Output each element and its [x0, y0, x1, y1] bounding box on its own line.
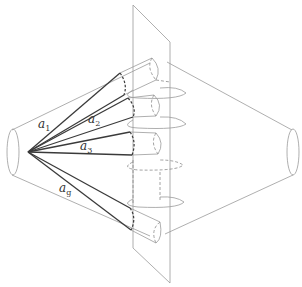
cyl3-bottom — [132, 154, 158, 155]
left-ellipse — [7, 129, 19, 175]
envelope-top-line-right — [167, 62, 292, 130]
label-ag: ag — [59, 182, 71, 197]
cyl1-dash-out — [156, 80, 170, 82]
outer-envelope — [7, 62, 299, 236]
cyl2-bottom — [133, 116, 156, 117]
label-a3: a3 — [80, 140, 92, 155]
ring-4 — [128, 197, 184, 208]
plane-top-edge — [133, 5, 170, 42]
cyl1-far-end — [152, 58, 158, 80]
ray-ag-bottom — [28, 152, 131, 230]
ray-a1-top — [28, 73, 120, 152]
envelope-bottom-line-right — [165, 175, 293, 234]
cyl3-top — [130, 132, 156, 133]
cylinder-3 — [130, 132, 161, 155]
cylg-top — [130, 208, 160, 222]
cyl2-top — [128, 95, 154, 98]
cyl3-far-end-hidden — [153, 133, 158, 154]
right-ellipse — [287, 129, 299, 175]
ray-ag-top — [28, 152, 130, 208]
plane-bottom-edge — [133, 248, 170, 283]
ring-3 — [128, 160, 183, 170]
cylg-far-end — [156, 222, 161, 243]
vertical-plane — [133, 5, 170, 283]
cylg-bottom — [131, 230, 156, 243]
cyl3-near-end — [130, 132, 134, 155]
cylinder-g — [130, 208, 161, 243]
cyl3-far-end — [156, 133, 161, 154]
ring-2 — [128, 117, 186, 129]
cyl1-top — [120, 58, 152, 73]
label-a2: a2 — [88, 113, 100, 128]
cylinder-1 — [120, 58, 170, 95]
diagram-canvas — [0, 0, 302, 287]
label-a1: a1 — [38, 118, 50, 133]
